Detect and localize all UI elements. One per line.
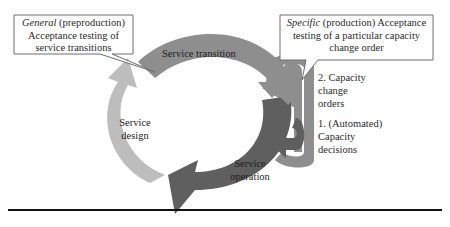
- service-operation-arrow: [168, 96, 291, 214]
- change-orders-label: 2. Capacity change orders: [318, 71, 366, 110]
- general-line2: Acceptance testing of: [15, 30, 132, 43]
- decisions-label: 1. (Automated) Capacity decisions: [318, 117, 382, 156]
- specific-rest: (production) Acceptance: [320, 17, 426, 28]
- specific-lead: Specific: [287, 17, 320, 28]
- general-line3: service transitions: [15, 42, 132, 55]
- general-callout: General (preproduction) Acceptance testi…: [15, 17, 132, 55]
- specific-callout: Specific (production) Acceptance testing…: [281, 17, 432, 55]
- bottom-rule: [8, 209, 442, 211]
- general-rest: (preproduction): [56, 17, 125, 28]
- service-operation-label: Service operation: [226, 158, 274, 183]
- service-transition-label: Service transition: [162, 48, 236, 61]
- general-lead: General: [22, 17, 56, 28]
- specific-line2: testing of a particular capacity: [281, 30, 432, 43]
- specific-line3: change order: [281, 42, 432, 55]
- service-design-label: Service design: [115, 117, 155, 142]
